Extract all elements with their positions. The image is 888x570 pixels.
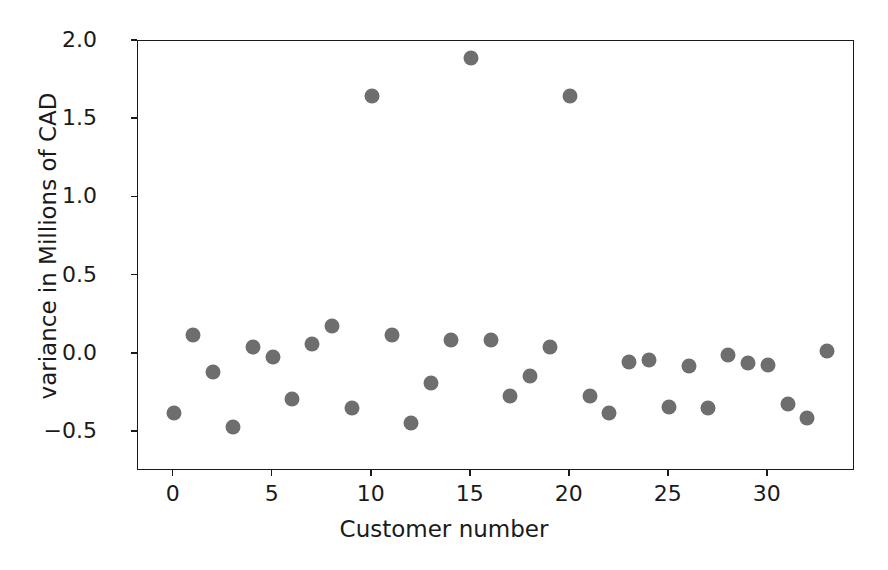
y-tick-label: −0.5 xyxy=(44,420,97,442)
data-point xyxy=(344,401,359,416)
x-tick-label: 30 xyxy=(753,483,781,505)
x-tick-label: 10 xyxy=(357,483,385,505)
x-tick-label: 20 xyxy=(555,483,583,505)
x-tick-label: 25 xyxy=(654,483,682,505)
data-point xyxy=(542,340,557,355)
data-point xyxy=(701,401,716,416)
data-point xyxy=(582,388,597,403)
data-point xyxy=(642,352,657,367)
data-point xyxy=(364,88,379,103)
x-tick-mark xyxy=(568,470,570,476)
data-point xyxy=(741,356,756,371)
data-point xyxy=(562,88,577,103)
x-tick-mark xyxy=(370,470,372,476)
data-point xyxy=(325,318,340,333)
x-tick-mark xyxy=(766,470,768,476)
x-tick-label: 5 xyxy=(265,483,279,505)
scatter-plot-figure: variance in Millions of CAD −0.50.00.51.… xyxy=(0,0,888,570)
x-tick-label: 0 xyxy=(166,483,180,505)
x-tick-mark xyxy=(469,470,471,476)
data-point xyxy=(602,406,617,421)
data-point xyxy=(800,410,815,425)
data-point xyxy=(463,51,478,66)
data-point xyxy=(503,388,518,403)
y-axis-label: variance in Millions of CAD xyxy=(35,0,61,526)
data-point xyxy=(780,396,795,411)
x-tick-mark xyxy=(667,470,669,476)
y-tick-label: 1.0 xyxy=(62,185,97,207)
data-point xyxy=(424,376,439,391)
y-tick-label: 0.0 xyxy=(62,342,97,364)
data-point xyxy=(622,354,637,369)
data-point xyxy=(265,349,280,364)
data-point xyxy=(483,332,498,347)
data-point xyxy=(245,340,260,355)
data-point xyxy=(166,406,181,421)
data-point xyxy=(681,359,696,374)
y-tick-label: 2.0 xyxy=(62,29,97,51)
x-tick-mark xyxy=(271,470,273,476)
data-point xyxy=(206,365,221,380)
data-point xyxy=(404,415,419,430)
data-point xyxy=(443,332,458,347)
data-point xyxy=(285,392,300,407)
data-point xyxy=(820,343,835,358)
y-tick-label: 1.5 xyxy=(62,107,97,129)
x-tick-mark xyxy=(172,470,174,476)
x-axis-label: Customer number xyxy=(0,516,888,542)
data-point xyxy=(384,327,399,342)
plot-area xyxy=(137,40,854,470)
data-point xyxy=(721,348,736,363)
data-point xyxy=(186,327,201,342)
data-point xyxy=(305,337,320,352)
data-point xyxy=(226,420,241,435)
data-point xyxy=(523,368,538,383)
y-tick-label: 0.5 xyxy=(62,264,97,286)
x-tick-label: 15 xyxy=(456,483,484,505)
data-point xyxy=(661,399,676,414)
data-point xyxy=(760,357,775,372)
